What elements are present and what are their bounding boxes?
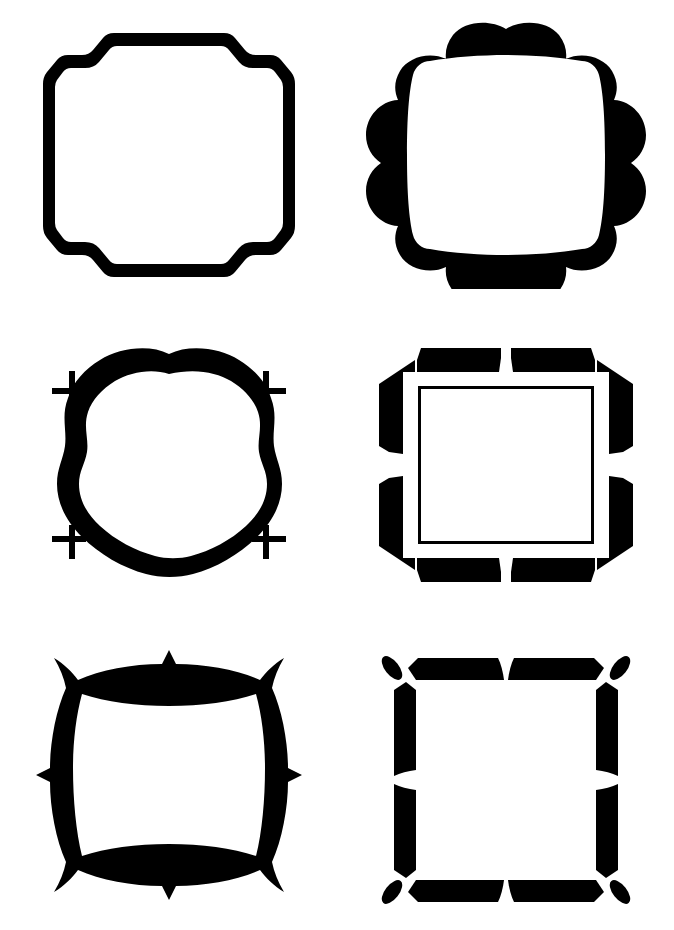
bar-segment-left-lower [394,784,416,878]
frame-cell-5 [0,620,337,930]
frame-cell-6 [337,620,674,930]
border-plate-left-upper [379,360,415,454]
border-plate-bottom-right [511,558,595,582]
leaf-ornament-bottom-right [605,877,633,904]
border-plate-bottom-left [417,558,501,582]
inner-outline-square [418,386,594,544]
frame-5-curved-spur-point-frame [32,642,306,908]
frame-6-segmented-leaf-corner-frame [372,646,640,904]
border-plate-top-left [417,348,501,372]
border-plate-right-lower [597,476,633,570]
leaf-ornament-bottom-left [377,877,405,904]
frame-3-wavy-ring-crossbar-frame [38,338,300,592]
frame-cell-2 [337,0,674,310]
leaf-ornament-top-left [377,653,405,684]
border-plate-left-lower [379,476,415,570]
crossbar-tab-bl-h [52,536,86,542]
frame-1-stepped-corner-octagon-frame [39,27,299,283]
frame-2-scalloped-cloud-frame [360,21,652,289]
bar-segment-bottom-left [408,880,504,902]
frame-collection-page [0,0,674,930]
frame-cell-4 [337,310,674,620]
frame-grid [0,0,674,930]
border-plate-top-right [511,348,595,372]
border-plate-right-upper [597,360,633,454]
bar-segment-top-right [508,658,604,680]
wavy-ring-body [57,348,282,577]
frame-4-octagon-split-border-frame [373,342,639,588]
frame-cell-1 [0,0,337,310]
bar-segment-right-lower [596,784,618,878]
bar-segment-right-upper [596,682,618,776]
frame-cell-3 [0,310,337,620]
leaf-ornament-top-right [605,653,633,684]
bar-segment-left-upper [394,682,416,776]
bar-segment-bottom-right [508,880,604,902]
bar-segment-top-left [408,658,504,680]
